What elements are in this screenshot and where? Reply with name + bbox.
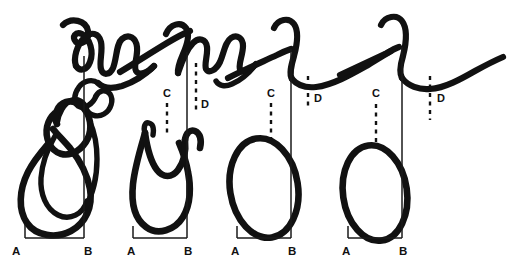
panel-2-lower-inner-notch [145,133,185,176]
panel-1-label-a: A [12,246,21,258]
panel-2-lower-loop [133,133,190,231]
panel-2-label-d: D [201,99,209,110]
panel-4-trough [402,57,503,89]
figure-drawing [0,0,515,264]
panel-4-label-b: B [399,246,408,258]
figure-canvas: A B A B C D A B C D A B C D [0,0,515,264]
panel-2-label-a: A [127,246,136,258]
panel-1-label-b: B [84,246,93,258]
panel-4-group [337,17,503,245]
panel-4-label-c: C [372,88,380,99]
panel-2-lower-left-edge [144,123,153,135]
panel-3-label-b: B [288,246,297,258]
panel-4-label-a: A [342,246,351,258]
panel-2-crest-hook [166,24,188,73]
panel-3-label-c: C [267,88,275,99]
panel-4-label-d: D [437,93,445,104]
panel-4-upper-trace [340,47,399,75]
panel-3-label-a: A [231,246,240,258]
panel-3-label-d: D [314,93,322,104]
panel-2-label-b: B [184,246,193,258]
panel-3-lower-oval [223,133,306,242]
panel-3-group [223,20,391,243]
panel-2-label-c: C [163,88,171,99]
